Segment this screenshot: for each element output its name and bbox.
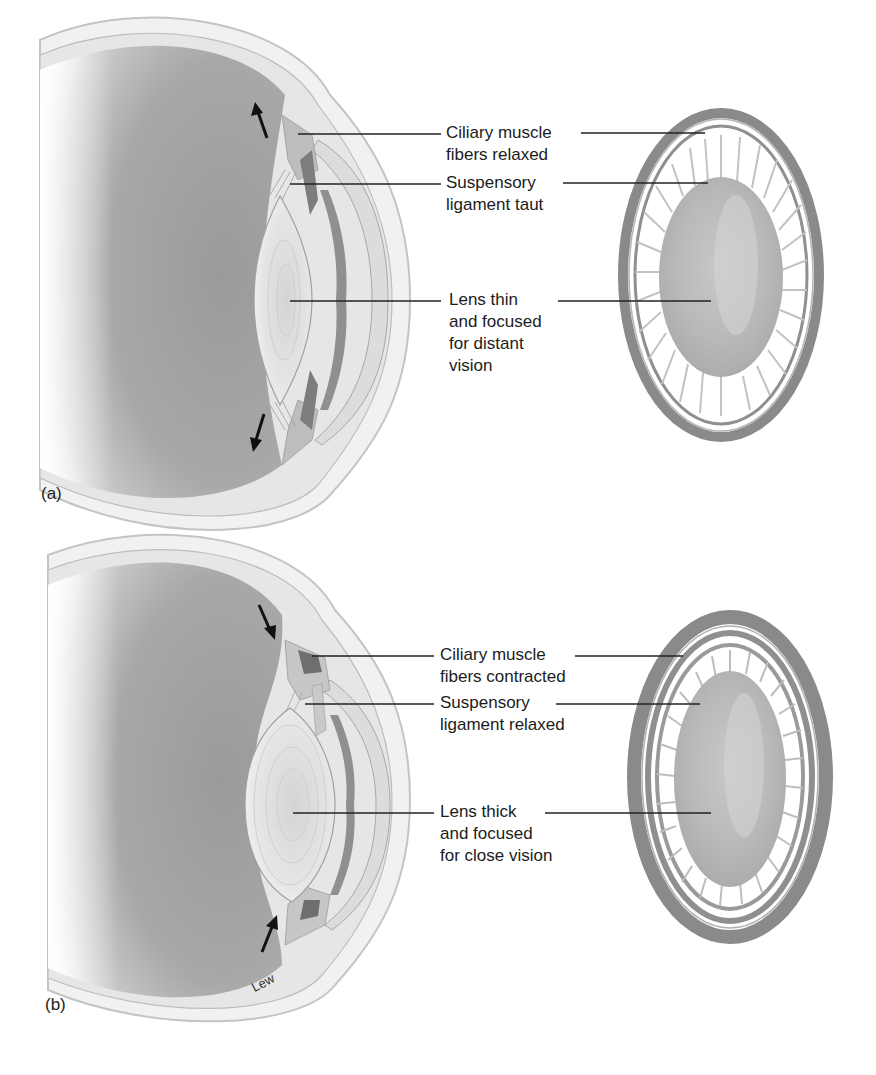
- label-line: fibers contracted: [440, 666, 566, 688]
- label-line: Ciliary muscle: [446, 122, 552, 144]
- label-line: for close vision: [440, 845, 552, 867]
- label-line: Lens thin: [449, 289, 542, 311]
- lens-front-view-b: [634, 617, 826, 937]
- label-line: Ciliary muscle: [440, 644, 566, 666]
- label-line: Suspensory: [440, 692, 565, 714]
- label-line: for distant: [449, 333, 542, 355]
- label-ciliary-muscle-contracted: Ciliary muscle fibers contracted: [440, 644, 566, 688]
- label-lens-thick: Lens thick and focused for close vision: [440, 801, 552, 867]
- label-line: Suspensory: [446, 172, 543, 194]
- label-line: vision: [449, 355, 542, 377]
- label-suspensory-ligament-taut: Suspensory ligament taut: [446, 172, 543, 216]
- lens-front-view-a: [623, 113, 819, 437]
- label-line: and focused: [449, 311, 542, 333]
- label-ciliary-muscle-relaxed: Ciliary muscle fibers relaxed: [446, 122, 552, 166]
- panel-label-b: (b): [45, 995, 66, 1015]
- label-line: Lens thick: [440, 801, 552, 823]
- accommodation-figure: Ciliary muscle fibers relaxed Suspensory…: [0, 0, 876, 1075]
- label-line: ligament relaxed: [440, 714, 565, 736]
- label-suspensory-ligament-relaxed: Suspensory ligament relaxed: [440, 692, 565, 736]
- eye-cross-section-a: [40, 18, 410, 530]
- panel-label-a: (a): [41, 484, 62, 504]
- eye-cross-section-b: [48, 535, 410, 1022]
- label-line: and focused: [440, 823, 552, 845]
- figure-artwork: [0, 0, 876, 1075]
- label-line: ligament taut: [446, 194, 543, 216]
- label-line: fibers relaxed: [446, 144, 552, 166]
- label-lens-thin: Lens thin and focused for distant vision: [449, 289, 542, 377]
